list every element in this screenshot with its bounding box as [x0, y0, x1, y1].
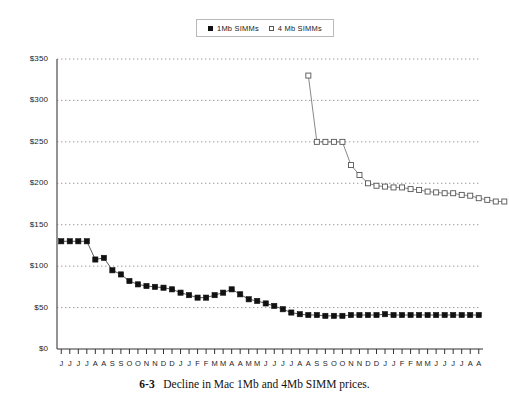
- data-point-marker: [331, 139, 336, 144]
- figure-container: 1Mb SIMMs 4 Mb SIMMs $0$50$100$150$200$2…: [0, 0, 509, 405]
- series-path: [308, 76, 504, 202]
- data-point-marker: [246, 297, 251, 302]
- data-point-marker: [195, 295, 200, 300]
- gridlines: [57, 59, 480, 308]
- data-point-marker: [357, 173, 362, 178]
- y-axis-tick-label: $0: [12, 344, 48, 353]
- data-point-marker: [289, 310, 294, 315]
- data-point-marker: [399, 312, 404, 317]
- data-point-marker: [280, 307, 285, 312]
- data-point-marker: [331, 313, 336, 318]
- data-point-marker: [459, 192, 464, 197]
- y-axis-tick-label: $50: [12, 303, 48, 312]
- data-point-marker: [314, 139, 319, 144]
- data-point-marker: [434, 312, 439, 317]
- data-point-marker: [306, 73, 311, 78]
- data-point-marker: [365, 181, 370, 186]
- data-point-marker: [169, 287, 174, 292]
- data-point-marker: [229, 287, 234, 292]
- data-point-marker: [135, 282, 140, 287]
- figure-caption: 6-3 Decline in Mac 1Mb and 4Mb SIMM pric…: [0, 378, 509, 390]
- data-point-marker: [101, 255, 106, 260]
- data-point-marker: [442, 191, 447, 196]
- data-point-marker: [212, 293, 217, 298]
- y-axis-tick-label: $250: [12, 137, 48, 146]
- data-point-marker: [84, 239, 89, 244]
- data-point-marker: [297, 312, 302, 317]
- y-axis-tick-label: $300: [12, 95, 48, 104]
- data-point-marker: [59, 239, 64, 244]
- x-axis-ticks: [61, 349, 478, 354]
- data-point-marker: [468, 312, 473, 317]
- y-axis-tick-label: $150: [12, 220, 48, 229]
- data-point-marker: [434, 190, 439, 195]
- data-point-marker: [161, 285, 166, 290]
- data-point-marker: [425, 189, 430, 194]
- data-point-marker: [340, 139, 345, 144]
- data-point-marker: [340, 313, 345, 318]
- data-point-marker: [417, 312, 422, 317]
- data-point-marker: [485, 197, 490, 202]
- data-point-marker: [425, 312, 430, 317]
- data-point-marker: [152, 284, 157, 289]
- data-point-marker: [263, 301, 268, 306]
- data-point-marker: [348, 163, 353, 168]
- data-point-marker: [357, 312, 362, 317]
- data-point-marker: [476, 196, 481, 201]
- data-point-marker: [391, 185, 396, 190]
- chart-plot: [0, 0, 509, 405]
- data-point-marker: [93, 257, 98, 262]
- series-path: [61, 241, 478, 316]
- data-point-marker: [451, 312, 456, 317]
- data-point-marker: [374, 183, 379, 188]
- caption-text: Decline in Mac 1Mb and 4Mb SIMM prices.: [163, 378, 369, 390]
- data-point-marker: [238, 292, 243, 297]
- data-point-marker: [144, 283, 149, 288]
- data-point-marker: [417, 187, 422, 192]
- data-point-marker: [374, 312, 379, 317]
- data-point-marker: [502, 199, 507, 204]
- data-point-marker: [408, 187, 413, 192]
- data-point-marker: [383, 184, 388, 189]
- caption-number: 6-3: [139, 378, 154, 390]
- data-point-marker: [323, 139, 328, 144]
- x-axis-tick-label: A: [474, 359, 484, 368]
- series-line-1mb: [59, 239, 482, 319]
- data-point-marker: [255, 298, 260, 303]
- data-point-marker: [451, 191, 456, 196]
- data-point-marker: [314, 312, 319, 317]
- data-point-marker: [76, 239, 81, 244]
- data-point-marker: [221, 290, 226, 295]
- y-axis-tick-label: $200: [12, 178, 48, 187]
- data-point-marker: [468, 193, 473, 198]
- data-point-marker: [348, 312, 353, 317]
- axes: [57, 59, 483, 349]
- data-point-marker: [110, 268, 115, 273]
- data-point-marker: [442, 312, 447, 317]
- data-point-marker: [365, 312, 370, 317]
- data-point-marker: [382, 312, 387, 317]
- data-point-marker: [118, 272, 123, 277]
- data-point-marker: [400, 185, 405, 190]
- data-point-marker: [306, 312, 311, 317]
- data-point-marker: [186, 293, 191, 298]
- data-point-marker: [323, 313, 328, 318]
- data-point-marker: [493, 199, 498, 204]
- data-point-marker: [178, 290, 183, 295]
- data-point-marker: [67, 239, 72, 244]
- data-point-marker: [476, 312, 481, 317]
- series-line-4mb: [306, 73, 507, 204]
- y-axis-tick-label: $350: [12, 54, 48, 63]
- y-axis-tick-label: $100: [12, 261, 48, 270]
- data-point-marker: [127, 278, 132, 283]
- data-point-marker: [459, 312, 464, 317]
- data-point-marker: [408, 312, 413, 317]
- data-point-marker: [204, 295, 209, 300]
- data-point-marker: [391, 312, 396, 317]
- data-point-marker: [272, 303, 277, 308]
